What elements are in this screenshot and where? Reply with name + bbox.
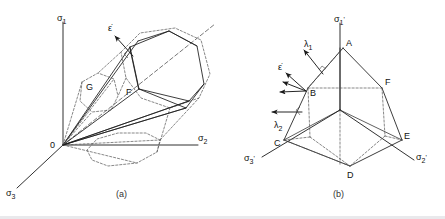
sigma-1-label: σ1 [57, 13, 67, 25]
origin-label-a: 0 [50, 140, 55, 150]
strain-rate-label-a: ε̇ [108, 23, 113, 33]
lambda1-vector [304, 50, 326, 74]
vertex-b-label: B [310, 88, 316, 98]
right-angle-mark-b2 [296, 107, 300, 115]
figure-root: σ1 σ2 σ3 0 F G ε̇ (a) [0, 0, 445, 219]
right-angle-mark-b1 [319, 66, 326, 70]
surface-f [130, 31, 204, 108]
strain-rate-label-b: ε̇ [278, 62, 283, 72]
strain-rate-arrow-b2 [283, 82, 306, 91]
vertex-c-label: C [274, 138, 281, 148]
sigma-3-prime-label: σ3' [244, 153, 255, 165]
panel-b-caption: (b) [333, 189, 344, 199]
panel-a-caption: (a) [116, 189, 127, 199]
footer-rule [0, 216, 445, 219]
sigma-2-label: σ2 [198, 133, 208, 145]
surface-f-label: F [126, 87, 132, 97]
panel-b-diagram: σ1' σ2' σ3' A B C D E F λ1 ε̇ λ2 (b) [222, 0, 445, 219]
panel-b-solid-edges [284, 48, 402, 166]
strain-rate-arrow-a [115, 36, 133, 56]
sigma-3-label: σ3 [6, 188, 16, 200]
panel-a-axes [17, 22, 198, 188]
strain-rate-vector-b [280, 73, 306, 92]
vertex-f-label: F [385, 77, 391, 87]
lambda2-label: λ2 [274, 120, 283, 132]
vertex-e-label: E [404, 131, 410, 141]
sigma-1-prime-label: σ1' [334, 14, 345, 26]
lambda1-arrow [304, 50, 323, 74]
panel-a-diagram: σ1 σ2 σ3 0 F G ε̇ (a) [0, 0, 222, 219]
vertex-a-label: A [346, 38, 352, 48]
strain-rate-arrow-b1 [286, 73, 306, 91]
lambda1-label: λ1 [304, 39, 313, 51]
panel-b-labels: σ1' σ2' σ3' A B C D E F λ1 ε̇ λ2 (b) [244, 14, 427, 199]
surface-g-label: G [86, 82, 93, 92]
vertex-d-label: D [347, 170, 354, 180]
sigma-3-axis [17, 145, 63, 188]
panel-a-labels: σ1 σ2 σ3 0 F G ε̇ (a) [6, 13, 208, 200]
sigma-2-prime-label: σ2' [416, 152, 427, 164]
panel-b-dashed-edges [284, 48, 402, 166]
strain-rate-arrow-b3 [280, 91, 306, 92]
